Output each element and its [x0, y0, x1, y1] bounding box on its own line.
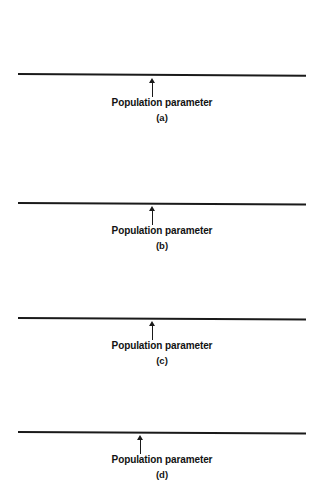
- panel-a-axis-line: [18, 73, 306, 77]
- panel-d-axis-line: [18, 431, 306, 435]
- panel-d-caption: (d): [0, 469, 324, 480]
- panel-b-caption: (b): [0, 240, 324, 251]
- panel-c-axis-line: [18, 317, 306, 321]
- panel-d-parameter-label: Population parameter: [0, 454, 324, 465]
- panel-b-axis-line: [18, 202, 306, 206]
- panel-b-parameter-label: Population parameter: [0, 225, 324, 236]
- panel-c-caption: (c): [0, 355, 324, 366]
- panel-c-parameter-label: Population parameter: [0, 340, 324, 351]
- arrow-shaft: [152, 210, 153, 225]
- arrow-shaft: [152, 82, 153, 97]
- sampling-distribution-figure: Population parameter (a) Population para…: [0, 0, 324, 484]
- arrow-shaft: [152, 325, 153, 340]
- panel-a-parameter-label: Population parameter: [0, 97, 324, 108]
- panel-a-caption: (a): [0, 112, 324, 123]
- arrow-shaft: [140, 439, 141, 454]
